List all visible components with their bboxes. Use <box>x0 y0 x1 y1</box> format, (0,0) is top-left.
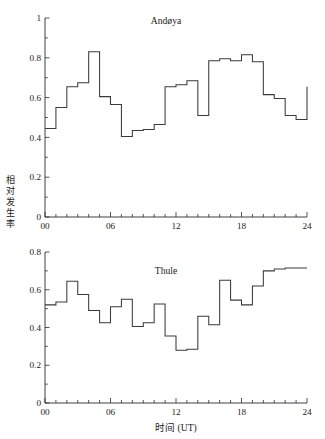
panel-thule-xtick-label: 00 <box>40 407 50 417</box>
panel-andoya-ytick-label: 1 <box>36 13 41 23</box>
panel-andoya-title: Andøya <box>151 15 182 26</box>
panel-andoya-ytick-label: 0.8 <box>30 53 42 63</box>
y-axis-title-char: 率 <box>6 218 15 229</box>
panel-thule-title: Thule <box>155 265 177 276</box>
panel-thule-xtick-label: 06 <box>106 407 116 417</box>
panel-andoya-xtick-label: 00 <box>40 221 50 231</box>
panel-thule-xtick-label: 24 <box>302 407 312 417</box>
panel-andoya-ytick-label: 0.6 <box>30 93 42 103</box>
panel-thule-xtick-label: 12 <box>171 407 181 417</box>
x-axis-title: 时间 (UT) <box>155 422 197 434</box>
dual-panel-step-chart: 00.20.40.60.810006121824Andøya00.20.40.6… <box>0 0 325 439</box>
figure-container: 00.20.40.60.810006121824Andøya00.20.40.6… <box>0 0 325 439</box>
panel-andoya-series-line <box>45 52 307 137</box>
y-axis-title-char: 发 <box>6 196 15 207</box>
panel-thule-series-line <box>45 268 307 350</box>
panel-thule-ytick-label: 0.2 <box>30 360 42 370</box>
panel-andoya-xtick-label: 12 <box>171 221 181 231</box>
y-axis-title-char: 相 <box>6 174 15 185</box>
panel-thule-ytick-label: 0.8 <box>30 247 42 257</box>
panel-andoya-axes <box>45 18 307 217</box>
panel-andoya-xtick-label: 18 <box>237 221 247 231</box>
y-axis-title-char: 生 <box>6 207 15 218</box>
y-axis-title-char: 对 <box>6 185 15 196</box>
panel-thule-xtick-label: 18 <box>237 407 247 417</box>
panel-andoya-ytick-label: 0.4 <box>30 133 42 143</box>
panel-andoya-ytick-label: 0.2 <box>30 172 42 182</box>
panel-thule-ytick-label: 0.6 <box>30 285 42 295</box>
panel-andoya-xtick-label: 24 <box>302 221 312 231</box>
panel-andoya-xtick-label: 06 <box>106 221 116 231</box>
panel-thule-ytick-label: 0.4 <box>30 323 42 333</box>
